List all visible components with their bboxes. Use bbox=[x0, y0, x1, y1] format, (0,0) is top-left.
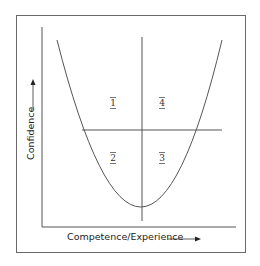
x-axis-label: Competence/Experience bbox=[67, 231, 183, 242]
quadrant-1-label: 1 bbox=[108, 98, 118, 108]
quadrant-2-label: 2 bbox=[108, 153, 118, 163]
u-curve bbox=[57, 40, 222, 207]
y-axis-label: Confidence bbox=[25, 107, 36, 160]
quadrant-4-label: 4 bbox=[157, 98, 167, 108]
y-axis-arrow-icon bbox=[31, 79, 36, 110]
quadrant-3-label: 3 bbox=[157, 153, 167, 163]
diagram-canvas bbox=[0, 0, 260, 266]
